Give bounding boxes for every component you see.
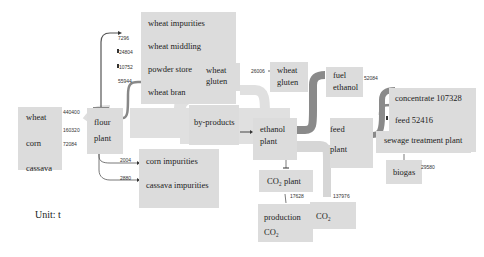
cassava-impurities-label: cassava impurities bbox=[146, 181, 209, 190]
flow-wheat-middling: 24804 bbox=[119, 50, 133, 55]
flow-fuel-ethanol: 52084 bbox=[364, 76, 378, 81]
unit-label: Unit: t bbox=[35, 209, 61, 220]
production-co2-label-1: production bbox=[264, 213, 301, 222]
flow-wheat-bran: 55944 bbox=[118, 79, 132, 84]
wheat-middling-label: wheat middling bbox=[148, 42, 201, 51]
feed-plant-label-1: feed bbox=[330, 125, 345, 134]
ethanol-plant-label-1: ethanol bbox=[260, 125, 285, 134]
input-corn-label: corn bbox=[26, 139, 41, 148]
fuel-ethanol-label-2: ethanol bbox=[333, 83, 358, 92]
feed-plant-label-2: plant bbox=[330, 145, 347, 154]
input-wheat-label: wheat bbox=[26, 113, 46, 122]
concentrate-label: concentrate 107328 bbox=[395, 94, 462, 103]
wheat-impurities-label: wheat impurities bbox=[148, 19, 205, 28]
flow-biogas: 29580 bbox=[421, 165, 435, 170]
by-products-label: by-products bbox=[194, 118, 235, 127]
production-co2-label-2: CO₂ bbox=[264, 228, 279, 237]
flour-plant-node bbox=[87, 108, 123, 154]
co2-plant-label: CO₂ plant bbox=[267, 177, 301, 186]
powder-store-label: powder store bbox=[148, 65, 192, 74]
flow-powder-store: 10752 bbox=[119, 65, 133, 70]
flour-plant-label-2: plant bbox=[94, 134, 111, 143]
wheat-gluten-right-label-2: gluten bbox=[277, 78, 298, 87]
flow-wheat-in: 440400 bbox=[63, 110, 80, 115]
wheat-bran-label: wheat bran bbox=[148, 88, 186, 97]
wheat-gluten-right-label-1: wheat bbox=[277, 66, 297, 75]
flow-corn-impurities: 2004 bbox=[120, 158, 131, 163]
flow-cassava-in: 72084 bbox=[63, 142, 77, 147]
flow-cassava-impurities: 2880 bbox=[120, 176, 131, 181]
sewage-plant-label: sewage treatment plant bbox=[384, 136, 462, 145]
feed-label: feed 52416 bbox=[395, 116, 433, 125]
input-cassava-label: cassava bbox=[26, 164, 52, 173]
wheat-gluten-mid-label-2: gluten bbox=[206, 77, 227, 86]
co2-label: CO₂ bbox=[316, 212, 331, 221]
flow-co2: 137976 bbox=[333, 194, 350, 199]
biogas-label: biogas bbox=[393, 168, 415, 177]
fuel-ethanol-label-1: fuel bbox=[333, 71, 346, 80]
ethanol-plant-label-2: plant bbox=[260, 137, 277, 146]
flow-wheat-gluten: 26006 bbox=[251, 69, 265, 74]
flow-corn-in: 160320 bbox=[63, 128, 80, 133]
wheat-gluten-mid-label-1: wheat bbox=[206, 66, 226, 75]
flour-plant-label-1: flour bbox=[94, 118, 111, 127]
corn-impurities-label: corn impurities bbox=[146, 157, 198, 166]
flow-production-co2: 17628 bbox=[290, 194, 304, 199]
flow-wheat-impurities: 7296 bbox=[118, 36, 129, 41]
